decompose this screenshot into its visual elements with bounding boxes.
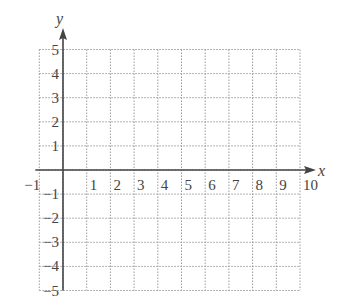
axes — [35, 28, 316, 291]
y-tick-label: −1 — [43, 186, 59, 202]
coordinate-grid: −112345678910 54321−1−2−3−4−5 x y — [0, 0, 346, 298]
x-tick-label: 7 — [232, 177, 240, 193]
x-tick-label: 2 — [113, 177, 121, 193]
y-tick-label: 4 — [52, 66, 60, 82]
y-tick-label: 3 — [52, 90, 60, 106]
x-tick-label: 9 — [279, 177, 287, 193]
x-tick-label: −1 — [24, 177, 40, 193]
x-tick-label: 3 — [137, 177, 145, 193]
y-tick-label: −4 — [43, 258, 59, 274]
y-tick-label: 5 — [52, 42, 60, 58]
x-tick-label: 4 — [161, 177, 169, 193]
y-tick-label: −3 — [43, 234, 59, 250]
y-tick-label: 2 — [52, 114, 60, 130]
x-tick-label: 1 — [90, 177, 98, 193]
x-tick-label: 5 — [185, 177, 193, 193]
y-tick-label: 1 — [52, 138, 60, 154]
x-tick-label: 10 — [303, 177, 318, 193]
y-axis-label: y — [54, 10, 64, 28]
x-tick-labels: −112345678910 — [24, 177, 318, 193]
x-tick-label: 6 — [208, 177, 216, 193]
x-tick-label: 8 — [256, 177, 264, 193]
y-tick-label: −2 — [43, 210, 59, 226]
y-tick-label: −5 — [43, 283, 59, 298]
x-axis-label: x — [317, 162, 325, 179]
